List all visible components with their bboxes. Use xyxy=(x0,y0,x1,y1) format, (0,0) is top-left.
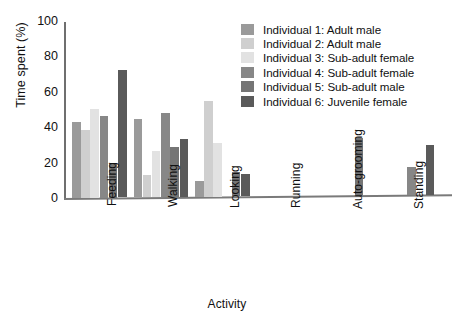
bar xyxy=(204,101,213,197)
bar xyxy=(72,122,81,198)
bar xyxy=(195,181,204,197)
bar xyxy=(143,175,152,197)
legend-label: Individual 6: Juvenile female xyxy=(263,95,407,108)
x-tick-feeding: Feeding xyxy=(105,162,119,206)
legend-item: Individual 2: Adult male xyxy=(241,36,414,50)
legend-item: Individual 4: Sub-adult female xyxy=(241,65,414,79)
y-tick-60: 60 xyxy=(18,85,58,99)
bar xyxy=(426,145,435,195)
y-tick-80: 80 xyxy=(18,49,58,63)
legend-swatch xyxy=(241,67,254,78)
legend-swatch xyxy=(241,38,254,49)
bar xyxy=(90,109,99,198)
legend-item: Individual 6: Juvenile female xyxy=(241,94,414,108)
x-tick-auto-grooming: Auto-grooming xyxy=(351,129,365,209)
legend-item: Individual 3: Sub-adult female xyxy=(241,51,414,65)
bar xyxy=(180,139,189,197)
legend-item: Individual 5: Sub-adult male xyxy=(241,80,414,94)
x-tick-standing: Standing xyxy=(412,161,426,209)
y-axis-line xyxy=(64,22,66,199)
y-tick-40: 40 xyxy=(18,120,58,134)
bar xyxy=(118,70,127,197)
legend-label: Individual 3: Sub-adult female xyxy=(263,51,414,64)
bar xyxy=(81,130,90,198)
legend-label: Individual 5: Sub-adult male xyxy=(263,80,405,93)
bar xyxy=(213,143,222,197)
legend-item: Individual 1: Adult male xyxy=(241,22,414,36)
x-axis-title: Activity xyxy=(0,297,454,311)
legend-swatch xyxy=(241,81,254,92)
legend-swatch xyxy=(241,96,254,107)
bar xyxy=(241,174,250,196)
y-tick-100: 100 xyxy=(18,14,58,28)
y-tick-20: 20 xyxy=(18,156,58,170)
legend: Individual 1: Adult maleIndividual 2: Ad… xyxy=(241,22,414,108)
bar-group-walking xyxy=(134,22,189,199)
x-tick-walking: Walking xyxy=(166,164,180,207)
bar xyxy=(134,119,143,197)
x-tick-looking: Looking xyxy=(228,165,242,208)
legend-swatch xyxy=(241,52,254,63)
bar xyxy=(152,151,161,197)
legend-label: Individual 2: Adult male xyxy=(263,37,381,50)
x-tick-running: Running xyxy=(289,163,303,208)
legend-swatch xyxy=(241,24,254,35)
y-tick-0: 0 xyxy=(18,191,58,205)
legend-label: Individual 4: Sub-adult female xyxy=(263,66,414,79)
bar-chart-figure: Time spent (%) 020406080100 FeedingWalki… xyxy=(0,0,454,328)
legend-label: Individual 1: Adult male xyxy=(263,23,381,36)
